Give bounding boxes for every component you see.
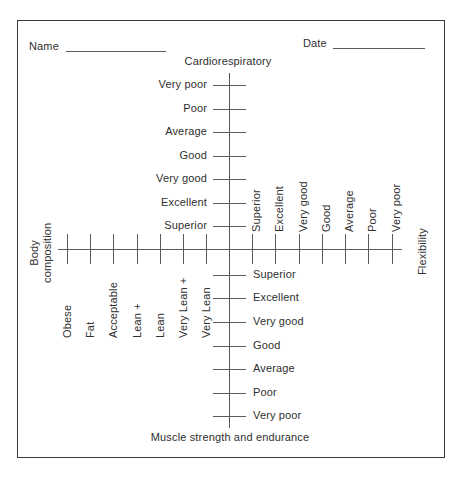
muscle-tick — [213, 346, 246, 347]
muscle-tick — [213, 322, 246, 323]
muscle-tick-label: Good — [253, 339, 281, 352]
body-composition-tick-label: Very Lean + — [177, 277, 190, 338]
body-composition-tick — [160, 234, 161, 264]
body-composition-tick — [113, 234, 114, 264]
muscle-tick — [213, 298, 246, 299]
cardio-tick-label: Excellent — [77, 196, 207, 209]
name-fill-line — [66, 51, 166, 52]
cardio-tick — [213, 85, 246, 86]
flexibility-tick-label: Good — [320, 204, 333, 232]
muscle-tick-label: Poor — [253, 386, 277, 399]
muscle-tick-label: Very poor — [253, 409, 301, 422]
flexibility-axis-title: Flexibility — [416, 228, 429, 275]
body-composition-tick-label: Fat — [84, 322, 97, 338]
cardio-axis-title: Cardiorespiratory — [128, 55, 328, 68]
cardio-tick-label: Poor — [77, 102, 207, 115]
body-composition-tick-label: Lean — [154, 313, 167, 338]
body-composition-axis-title: Bodycomposition — [28, 223, 54, 283]
name-label: Name — [29, 40, 59, 53]
flexibility-tick-label: Poor — [366, 208, 379, 232]
cardio-tick — [213, 203, 246, 204]
muscle-tick-label: Superior — [253, 268, 296, 281]
flexibility-tick-label: Excellent — [273, 186, 286, 232]
cardio-tick-label: Very good — [77, 172, 207, 185]
flexibility-tick — [275, 234, 276, 264]
flexibility-tick-label: Very good — [297, 181, 310, 232]
flexibility-tick — [252, 234, 253, 264]
body-composition-tick-label: Obese — [61, 305, 74, 338]
muscle-tick — [213, 416, 246, 417]
flexibility-tick-label: Very poor — [390, 184, 403, 232]
body-composition-tick-label: Acceptable — [107, 282, 120, 338]
body-composition-tick-label: Very Lean — [200, 287, 213, 338]
body-composition-tick-label: Lean + — [131, 303, 144, 338]
cardio-tick — [213, 179, 246, 180]
cardio-tick — [213, 156, 246, 157]
flexibility-tick-label: Average — [343, 190, 356, 232]
vertical-axis-line — [229, 73, 230, 428]
flexibility-tick — [345, 234, 346, 264]
flexibility-tick-label: Superior — [250, 189, 263, 232]
body-composition-tick — [137, 234, 138, 264]
cardio-tick-label: Average — [77, 125, 207, 138]
date-fill-line — [333, 48, 425, 49]
flexibility-tick — [322, 234, 323, 264]
flexibility-tick — [368, 234, 369, 264]
muscle-tick-label: Excellent — [253, 291, 299, 304]
horizontal-axis-line — [58, 249, 402, 250]
cardio-tick — [213, 109, 246, 110]
flexibility-tick — [299, 234, 300, 264]
muscle-tick-label: Average — [253, 362, 295, 375]
body-composition-tick — [90, 234, 91, 264]
flexibility-tick — [392, 234, 393, 264]
cardio-tick-label: Superior — [77, 219, 207, 232]
cardio-tick-label: Very poor — [77, 78, 207, 91]
cardio-tick — [213, 226, 246, 227]
date-label: Date — [303, 37, 327, 50]
muscle-axis-title: Muscle strength and endurance — [80, 431, 380, 444]
muscle-tick — [213, 275, 246, 276]
body-composition-tick — [67, 234, 68, 264]
cardio-tick — [213, 132, 246, 133]
body-composition-tick — [183, 234, 184, 264]
muscle-tick — [213, 369, 246, 370]
muscle-tick-label: Very good — [253, 315, 304, 328]
cardio-tick-label: Good — [77, 149, 207, 162]
muscle-tick — [213, 393, 246, 394]
body-composition-tick — [206, 234, 207, 264]
